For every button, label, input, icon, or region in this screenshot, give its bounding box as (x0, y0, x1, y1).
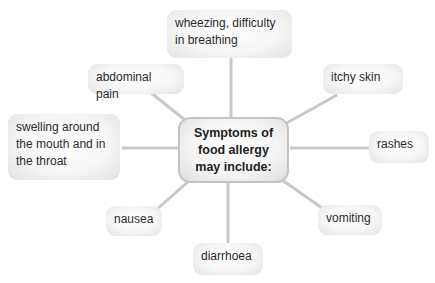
node-label: itchy skin (331, 70, 380, 84)
node-diarrhoea: diarrhoea (193, 243, 263, 275)
center-title: Symptoms of food allergy may include: (194, 126, 273, 174)
node-vomiting: vomiting (318, 205, 382, 235)
link-vomiting (282, 180, 322, 208)
node-label: diarrhoea (201, 249, 252, 263)
link-itchy (285, 95, 337, 124)
node-label: vomiting (326, 211, 371, 225)
node-abdominal-pain: abdominal pain (88, 64, 184, 94)
node-label: nausea (114, 212, 153, 226)
node-swelling: swelling around the mouth and in the thr… (8, 114, 120, 180)
node-wheezing: wheezing, difficulty in breathing (167, 10, 292, 58)
link-nausea (155, 180, 190, 211)
node-label: rashes (377, 137, 413, 151)
node-nausea: nausea (106, 206, 162, 236)
center-node: Symptoms of food allergy may include: (178, 117, 289, 183)
node-itchy-skin: itchy skin (323, 64, 403, 94)
node-label: swelling around the mouth and in the thr… (16, 120, 105, 168)
link-abdominal (150, 92, 185, 120)
node-rashes: rashes (369, 131, 429, 163)
node-label: wheezing, difficulty in breathing (175, 16, 276, 47)
